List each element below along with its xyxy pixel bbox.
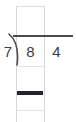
work-row-one-box[interactable]	[16, 66, 45, 91]
division-bar-icon	[13, 35, 73, 37]
quotient-answer-box[interactable]	[16, 6, 45, 35]
dividend-digit-ones: 4	[50, 44, 63, 59]
work-row-divider-2	[16, 110, 45, 111]
long-division-worksheet: 7 8 4	[0, 0, 76, 122]
dividend-digit-tens: 8	[24, 44, 37, 59]
divisor-digit: 7	[2, 44, 14, 59]
work-row-two-box[interactable]	[16, 95, 45, 110]
